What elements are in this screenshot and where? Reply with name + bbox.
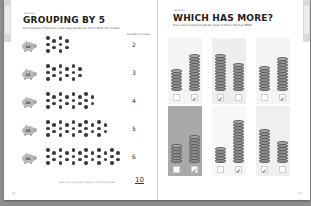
penny-dot [59,120,63,124]
penny-dot [78,123,82,127]
dime-coin [215,87,226,91]
penny-dot [59,155,63,159]
empty-checkbox[interactable] [173,166,180,173]
total-answer: 10 [135,176,144,184]
penny-dot [84,105,88,109]
dime-stack [189,55,200,91]
penny-dot [116,151,120,155]
svg-text:10: 10 [26,45,31,49]
dime-stack [233,64,244,91]
penny-dot [97,161,101,165]
answer-value: 3 [132,69,136,76]
left-page-title: GROUPING BY 5 [23,15,105,25]
right-page: Activity WHICH HAS MORE? Put a check mar… [158,0,310,200]
checked-checkbox[interactable]: ✓ [279,94,286,101]
left-page: Activity GROUPING BY 5 Circle groups of … [4,0,158,200]
grouping-row: 255 [4,120,157,144]
answer-value: 2 [132,41,136,48]
piggy-bank-icon: 15 [20,68,38,80]
penny-dot [72,161,76,165]
checked-checkbox[interactable]: ✓ [235,166,242,173]
grouping-row: 153 [4,64,157,88]
penny-dot [97,127,101,131]
penny-dot [91,102,95,106]
empty-checkbox[interactable] [217,166,224,173]
penny-dot [46,120,50,124]
penny-dot [46,49,50,53]
penny-dot [84,127,88,131]
penny-dot [72,155,76,159]
dime-coin [277,87,288,91]
penny-dot [65,95,69,99]
penny-dot [72,105,76,109]
penny-dot [91,95,95,99]
dime-stack [171,145,182,163]
penny-dot [84,133,88,137]
answer-value: 6 [132,153,136,160]
penny-dot [59,43,63,47]
left-page-number: 10 [12,192,15,195]
grouping-row: 102 [4,36,157,60]
penny-dot [65,46,69,50]
empty-checkbox[interactable] [235,94,242,101]
penny-dot [52,39,56,43]
piggy-bank-icon: 10 [20,40,38,52]
penny-dot [52,102,56,106]
penny-dot [65,151,69,155]
penny-dot [104,130,108,134]
footnote: How many groups of 5 make 50? Write the … [59,181,116,184]
penny-dot [91,158,95,162]
grouping-row: 204 [4,92,157,116]
dime-coin [259,87,270,91]
penny-dot [91,151,95,155]
dime-coin [189,159,200,163]
penny-dot [104,158,108,162]
penny-dot [72,148,76,152]
checked-checkbox[interactable]: ✓ [217,94,224,101]
penny-dot [65,74,69,78]
empty-checkbox[interactable] [173,94,180,101]
penny-dot [46,161,50,165]
penny-dot [59,127,63,131]
penny-dot [46,71,50,75]
penny-dot [65,102,69,106]
penny-dot [52,158,56,162]
penny-dot [59,36,63,40]
penny-dot [52,151,56,155]
penny-dot [104,123,108,127]
penny-dot [72,99,76,103]
checked-checkbox[interactable]: ✓ [191,166,198,173]
empty-checkbox[interactable] [261,94,268,101]
penny-dot [78,130,82,134]
penny-dot [97,155,101,159]
dime-coin [233,159,244,163]
dime-stack [215,148,226,163]
piggy-bank-icon: 25 [20,124,38,136]
penny-dot [72,120,76,124]
dime-stack [189,136,200,163]
penny-dot [46,64,50,68]
left-instruction: Circle groups of 5 pennies. How many gro… [23,27,120,30]
checked-checkbox[interactable]: ✓ [191,94,198,101]
penny-dot [59,71,63,75]
comparison-panel: ✓ [212,106,246,176]
penny-dot [72,92,76,96]
answer-value: 4 [132,97,136,104]
dime-coin [259,159,270,163]
dime-stack [277,142,288,163]
penny-dot [52,74,56,78]
penny-dot [52,67,56,71]
empty-checkbox[interactable] [279,166,286,173]
penny-dot [78,158,82,162]
right-page-title: WHICH HAS MORE? [173,13,273,23]
penny-dot [91,130,95,134]
checked-checkbox[interactable]: ✓ [261,166,268,173]
penny-dot [59,92,63,96]
penny-dot [46,155,50,159]
penny-dot [46,99,50,103]
comparison-panel: ✓ [256,38,290,104]
penny-dot [59,105,63,109]
penny-dot [46,148,50,152]
penny-dot [65,123,69,127]
svg-text:25: 25 [26,129,31,133]
